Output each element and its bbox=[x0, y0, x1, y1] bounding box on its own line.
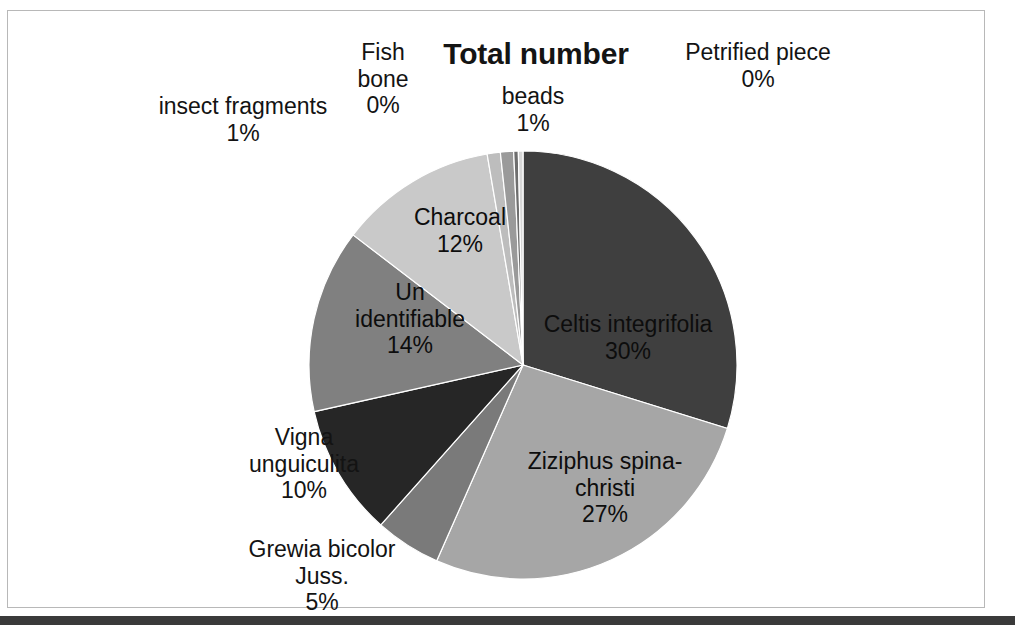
chart-title: Total number bbox=[421, 38, 651, 70]
slice-label-insect-fragments: insect fragments 1% bbox=[118, 93, 368, 146]
page-bottom-edge bbox=[0, 616, 1015, 625]
slice-label-celtis-integrifolia: Celtis integrifolia 30% bbox=[508, 311, 748, 364]
slice-label-vigna-unguiculita: Vigna unguiculita 10% bbox=[204, 424, 404, 504]
slice-label-fish-bone: Fish bone 0% bbox=[338, 39, 428, 119]
slice-label-beads: beads 1% bbox=[453, 83, 613, 136]
slice-label-charcoal: Charcoal 12% bbox=[360, 204, 560, 257]
page-left-edge bbox=[0, 0, 4, 625]
slice-label-grewia-bicolor: Grewia bicolor Juss. 5% bbox=[192, 536, 452, 616]
slice-label-unidentifiable: Un identifiable 14% bbox=[310, 279, 510, 359]
slice-label-petrified-piece: Petrified piece 0% bbox=[638, 39, 878, 92]
chart-frame: Total number insect fragments 1% Fish bo… bbox=[7, 10, 985, 608]
slice-label-ziziphus-spina-christi: Ziziphus spina- christi 27% bbox=[490, 448, 720, 528]
